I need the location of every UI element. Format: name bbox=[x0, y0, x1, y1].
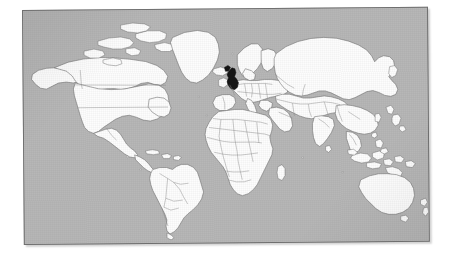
world-map-svg[interactable]: .land{fill:#fdfdfd;stroke:#6a6a6a;stroke… bbox=[23, 8, 429, 244]
page-canvas: .land{fill:#fdfdfd;stroke:#6a6a6a;stroke… bbox=[0, 0, 450, 259]
map-caption: World map with the United Kingdom highli… bbox=[0, 0, 1, 1]
world-map-figure[interactable]: .land{fill:#fdfdfd;stroke:#6a6a6a;stroke… bbox=[22, 7, 430, 245]
